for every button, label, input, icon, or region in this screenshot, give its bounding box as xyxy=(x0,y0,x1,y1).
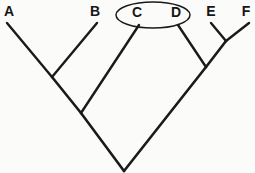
taxon-label-e: E xyxy=(206,3,215,19)
branch-def-stem xyxy=(124,67,206,171)
cladogram-diagram: A B C D E F xyxy=(0,0,255,173)
branch-f xyxy=(226,23,249,41)
taxon-label-c: C xyxy=(132,4,142,20)
branch-a xyxy=(7,23,52,77)
taxon-label-d: D xyxy=(171,4,181,20)
cladogram-canvas: A B C D E F xyxy=(0,0,255,173)
branch-abc-stem xyxy=(81,113,124,171)
taxon-label-a: A xyxy=(4,3,14,19)
branch-d xyxy=(178,25,206,67)
branch-b xyxy=(52,23,97,77)
branch-e xyxy=(211,23,226,41)
branch-ab-stem xyxy=(52,77,81,113)
taxon-label-b: B xyxy=(90,3,100,19)
branch-ef-stem xyxy=(206,41,226,67)
branch-c xyxy=(81,25,139,113)
taxon-label-f: F xyxy=(242,3,251,19)
